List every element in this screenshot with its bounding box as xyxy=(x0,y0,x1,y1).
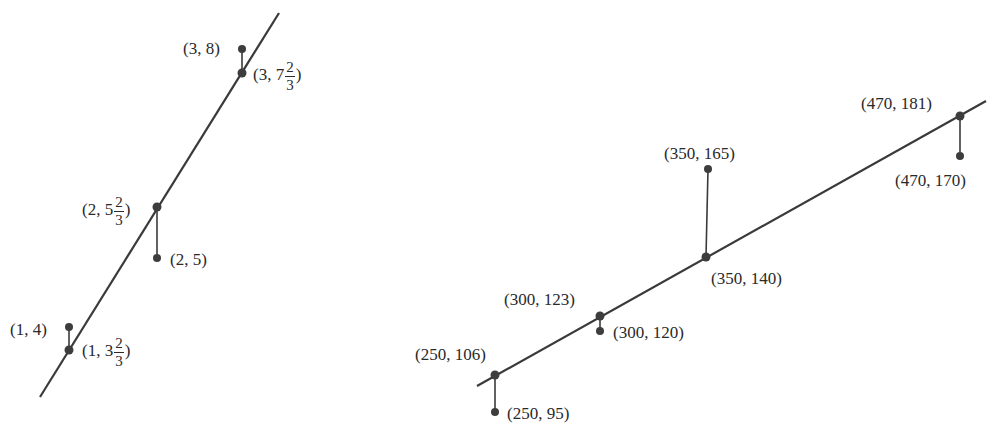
label-whole: (3, 7 xyxy=(253,65,284,84)
data-point-observed xyxy=(65,323,73,331)
numerator: 2 xyxy=(114,195,124,212)
denominator: 3 xyxy=(114,212,124,228)
point-label: (470, 181) xyxy=(861,95,932,112)
data-point-predicted xyxy=(238,69,247,78)
left-diagram xyxy=(40,13,279,397)
point-label: (250, 95) xyxy=(507,405,569,422)
data-point-predicted xyxy=(702,253,711,262)
point-label-fraction: (1, 323) xyxy=(82,336,130,369)
point-label: (470, 170) xyxy=(895,172,966,189)
point-label-fraction: (2, 523) xyxy=(82,195,130,228)
data-point-predicted xyxy=(491,371,500,380)
denominator: 3 xyxy=(114,353,124,369)
diagram-canvas xyxy=(0,0,992,429)
numerator: 2 xyxy=(114,336,124,353)
data-point-observed xyxy=(956,152,964,160)
point-label: (250, 106) xyxy=(415,346,486,363)
data-point-observed xyxy=(704,165,712,173)
label-end: ) xyxy=(125,341,131,360)
point-label: (350, 165) xyxy=(664,145,735,162)
numerator: 2 xyxy=(285,60,295,77)
data-point-observed xyxy=(596,327,604,335)
data-point-predicted xyxy=(153,203,162,212)
regression-residuals-figure: (3, 8) (3, 723) (2, 523) (2, 5) (1, 4) (… xyxy=(0,0,992,429)
label-whole: (1, 3 xyxy=(82,341,113,360)
data-point-predicted xyxy=(65,346,74,355)
point-label: (300, 120) xyxy=(613,324,684,341)
point-label: (3, 8) xyxy=(183,40,220,57)
data-point-observed xyxy=(491,408,499,416)
label-end: ) xyxy=(296,65,302,84)
label-end: ) xyxy=(125,200,131,219)
data-point-observed xyxy=(153,254,161,262)
point-label: (2, 5) xyxy=(170,251,207,268)
residual-segment xyxy=(706,169,708,257)
point-label-fraction: (3, 723) xyxy=(253,60,301,93)
data-point-observed xyxy=(238,45,246,53)
point-label: (350, 140) xyxy=(711,270,782,287)
fraction: 23 xyxy=(285,60,295,93)
data-point-predicted xyxy=(956,112,965,121)
point-label: (1, 4) xyxy=(10,321,47,338)
fraction: 23 xyxy=(114,336,124,369)
denominator: 3 xyxy=(285,77,295,93)
label-whole: (2, 5 xyxy=(82,200,113,219)
fraction: 23 xyxy=(114,195,124,228)
point-label: (300, 123) xyxy=(504,291,575,308)
data-point-predicted xyxy=(596,312,605,321)
